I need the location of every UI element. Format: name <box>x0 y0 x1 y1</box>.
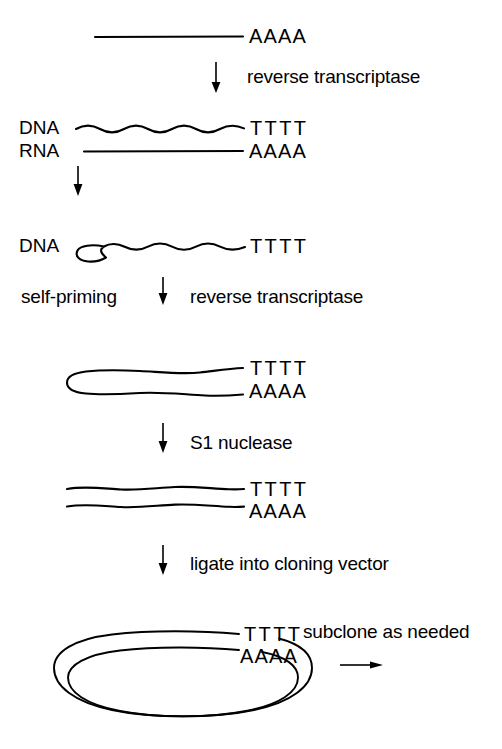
blunt-duplex-top-strand <box>67 487 244 490</box>
poly-t-tail-label-2: TTTT <box>250 236 308 256</box>
cdna-synthesis-diagram: AAAA reverse transcriptase DNA TTTT RNA … <box>0 0 502 749</box>
poly-a-tail-label-2: AAAA <box>249 141 307 161</box>
arrow-reverse-transcriptase-2 <box>159 277 168 305</box>
strand-label-dna-1: DNA <box>19 118 59 137</box>
arrow-s1-nuclease <box>159 423 168 453</box>
strand-label-dna-2: DNA <box>19 236 59 255</box>
caption-subclone-as-needed: subclone as needed <box>303 622 469 641</box>
caption-s1-nuclease: S1 nuclease <box>190 433 292 452</box>
arrow-subclone <box>340 662 383 669</box>
arrow-to-self-primed <box>74 166 83 196</box>
hairpin-duplex-strand <box>67 368 243 396</box>
poly-t-tail-label-4: TTTT <box>250 479 308 499</box>
rna-straight-strand-1 <box>84 151 243 152</box>
poly-t-tail-label-3: TTTT <box>250 358 308 378</box>
poly-a-tail-label-3: AAAA <box>249 381 307 401</box>
poly-a-tail-label-1: AAAA <box>249 26 307 46</box>
caption-self-priming: self-priming <box>21 287 117 306</box>
poly-t-tail-label-1: TTTT <box>250 118 308 138</box>
mrna-strand-line <box>95 37 243 38</box>
caption-reverse-transcriptase-2: reverse transcriptase <box>190 287 363 306</box>
dna-wavy-strand-1 <box>76 126 244 133</box>
arrow-ligate <box>159 545 168 575</box>
dna-wavy-hook-strand <box>77 243 245 261</box>
caption-reverse-transcriptase-1: reverse transcriptase <box>247 67 420 86</box>
poly-a-tail-label-5: AAAA <box>240 646 298 666</box>
blunt-duplex-bottom-strand <box>67 504 244 507</box>
caption-ligate-into-cloning-vector: ligate into cloning vector <box>190 554 389 573</box>
arrow-reverse-transcriptase-1 <box>212 62 221 93</box>
poly-t-tail-label-5: TTTT <box>244 624 302 644</box>
poly-a-tail-label-4: AAAA <box>249 501 307 521</box>
strand-label-rna-1: RNA <box>19 141 59 160</box>
